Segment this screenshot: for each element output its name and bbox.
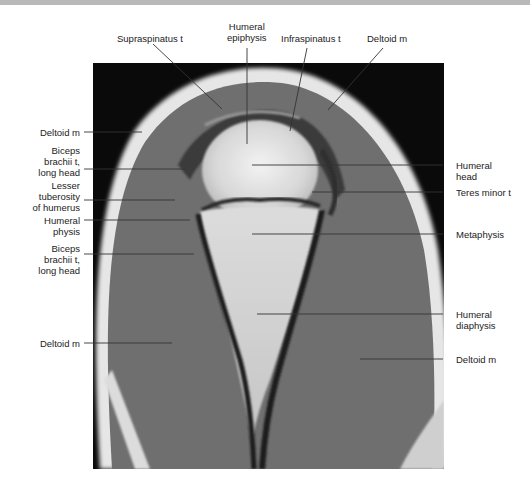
label-deltoid-left-upper: Deltoid m bbox=[40, 127, 80, 138]
label-metaphysis: Metaphysis bbox=[456, 229, 504, 240]
label-humeral-epiphysis: Humeral epiphysis bbox=[227, 21, 267, 43]
label-biceps-upper: Biceps brachii t, long head bbox=[38, 145, 80, 178]
label-humeral-diaphysis: Humeral diaphysis bbox=[456, 309, 496, 331]
label-biceps-lower: Biceps brachii t, long head bbox=[38, 243, 80, 276]
label-lesser-tuberosity: Lesser tuberosity of humerus bbox=[32, 180, 80, 213]
label-humeral-head: Humeral head bbox=[456, 160, 492, 182]
label-deltoid-left-lower: Deltoid m bbox=[40, 338, 80, 349]
label-teres-minor-tendon: Teres minor t bbox=[456, 187, 511, 198]
label-supraspinatus-tendon: Supraspinatus t bbox=[117, 33, 183, 44]
label-deltoid-right: Deltoid m bbox=[456, 354, 496, 365]
label-infraspinatus-tendon: Infraspinatus t bbox=[281, 33, 341, 44]
label-humeral-physis: Humeral physis bbox=[44, 215, 80, 237]
mri-figure: Supraspinatus t Humeral epiphysis Infras… bbox=[0, 0, 530, 497]
label-deltoid-top: Deltoid m bbox=[367, 33, 407, 44]
